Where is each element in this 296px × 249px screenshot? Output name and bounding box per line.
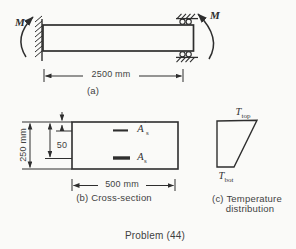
temperature-trapezoid xyxy=(217,120,257,167)
moment-label-right: M xyxy=(210,9,220,21)
bottom-steel-subscript: s xyxy=(144,157,147,165)
cross-section-outline xyxy=(72,122,178,169)
top-steel-subscript: s xyxy=(146,129,149,137)
part-c-label-line2: distribution xyxy=(226,203,274,214)
bottom-steel-label: As xyxy=(137,151,146,165)
cross-section-diagram xyxy=(22,112,178,191)
right-guided-support-icon xyxy=(176,14,198,62)
textbook-figure-problem-44: M M 2500 mm (a) 250 mm 50 A′s As 500 mm … xyxy=(0,0,296,249)
temp-bot-subscript: bot xyxy=(225,176,234,184)
beam-outline xyxy=(43,25,194,51)
width-dimension-label: 500 mm xyxy=(105,179,139,189)
top-steel-label: A′s xyxy=(137,123,148,137)
part-b-label: (b) Cross-section xyxy=(76,192,152,203)
temp-top-label: Ttop xyxy=(236,106,251,120)
top-steel-symbol: A xyxy=(137,123,144,134)
temperature-distribution-diagram xyxy=(217,120,257,167)
span-dimension-label: 2500 mm xyxy=(92,69,131,79)
left-fixed-support-icon xyxy=(35,16,42,61)
bottom-rebar-icon xyxy=(113,156,130,159)
height-dimension-label: 250 mm xyxy=(18,128,28,162)
top-bar-offset-label: 50 xyxy=(57,140,67,150)
temp-bot-label: Tbot xyxy=(219,170,234,184)
figure-caption: Problem (44) xyxy=(125,230,185,241)
moment-label-left: M xyxy=(15,16,25,28)
top-rebar-icon xyxy=(113,129,128,131)
part-a-label: (a) xyxy=(87,85,99,96)
temp-top-subscript: top xyxy=(242,112,251,120)
bottom-steel-symbol: A xyxy=(137,151,144,162)
